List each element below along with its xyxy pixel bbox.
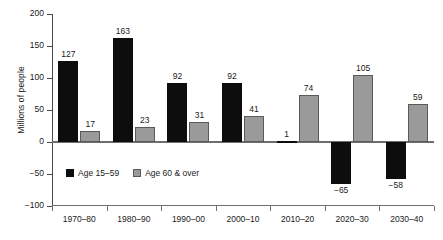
x-axis-tick-label: 1990–00 bbox=[161, 213, 216, 225]
y-axis-tick-label: −100 bbox=[25, 200, 44, 211]
x-axis-tick bbox=[107, 206, 108, 211]
y-axis-tick: 0 bbox=[47, 142, 52, 143]
y-axis-tick-label: 100 bbox=[30, 72, 44, 83]
y-axis-tick-label: 150 bbox=[30, 40, 44, 51]
bar[interactable] bbox=[386, 142, 406, 179]
y-axis-tick-label: −50 bbox=[30, 168, 44, 179]
y-axis-tick: 200 bbox=[47, 14, 52, 15]
legend-label: Age 15–59 bbox=[78, 168, 119, 178]
bar[interactable] bbox=[189, 122, 209, 142]
bar[interactable] bbox=[135, 127, 155, 142]
bar-value-label: 1 bbox=[272, 129, 302, 140]
legend-label: Age 60 & over bbox=[145, 168, 199, 178]
zero-baseline bbox=[52, 141, 434, 143]
y-axis-tick: 50 bbox=[47, 110, 52, 111]
y-axis-tick-label: 0 bbox=[39, 136, 44, 147]
legend-swatch-icon bbox=[133, 169, 141, 177]
bar[interactable] bbox=[408, 104, 428, 142]
bar-value-label: 92 bbox=[217, 71, 247, 82]
x-axis-tick-label: 2000–10 bbox=[216, 213, 271, 225]
x-axis-tick-label: 1970–80 bbox=[52, 213, 107, 225]
bar[interactable] bbox=[80, 131, 100, 142]
y-axis-tick: −50 bbox=[47, 174, 52, 175]
bar-value-label: −65 bbox=[326, 185, 356, 196]
bar-value-label: −58 bbox=[381, 180, 411, 191]
x-axis-tick bbox=[325, 206, 326, 211]
x-axis-tick-label: 1980–90 bbox=[107, 213, 162, 225]
bar-value-label: 31 bbox=[184, 110, 214, 121]
y-axis-tick-label: 200 bbox=[30, 8, 44, 19]
chart-legend: Age 15–59Age 60 & over bbox=[66, 168, 199, 178]
bar[interactable] bbox=[299, 95, 319, 142]
x-axis-spine bbox=[52, 205, 434, 206]
y-axis-tick: 100 bbox=[47, 78, 52, 79]
legend-swatch-icon bbox=[66, 169, 74, 177]
bar-value-label: 163 bbox=[108, 26, 138, 37]
x-axis-tick-label: 2030–40 bbox=[379, 213, 434, 225]
x-axis-tick bbox=[161, 206, 162, 211]
x-axis-tick-label: 2010–20 bbox=[270, 213, 325, 225]
bar-chart-figure: Millions of people 200150100500−50−100 1… bbox=[0, 0, 443, 240]
legend-entry[interactable]: Age 60 & over bbox=[133, 168, 199, 178]
legend-entry[interactable]: Age 15–59 bbox=[66, 168, 119, 178]
bar-value-label: 41 bbox=[239, 104, 269, 115]
x-axis-tick bbox=[216, 206, 217, 211]
x-axis-tick bbox=[52, 206, 53, 211]
y-axis-title: Millions of people bbox=[14, 10, 28, 190]
x-axis-tick bbox=[270, 206, 271, 211]
x-axis-tick bbox=[379, 206, 380, 211]
bar[interactable] bbox=[277, 141, 297, 143]
bar[interactable] bbox=[244, 116, 264, 142]
x-axis-tick-label: 2020–30 bbox=[325, 213, 380, 225]
bar-value-label: 92 bbox=[162, 71, 192, 82]
x-axis-tick bbox=[434, 206, 435, 211]
bar-value-label: 105 bbox=[348, 63, 378, 74]
y-axis-spine bbox=[52, 14, 53, 206]
bar[interactable] bbox=[113, 38, 133, 142]
bar-value-label: 17 bbox=[75, 119, 105, 130]
bar-value-label: 74 bbox=[294, 83, 324, 94]
bar-value-label: 23 bbox=[130, 115, 160, 126]
bar-value-label: 59 bbox=[403, 92, 433, 103]
y-axis-tick-label: 50 bbox=[35, 104, 44, 115]
bar[interactable] bbox=[353, 75, 373, 142]
bar[interactable] bbox=[331, 142, 351, 184]
bar-value-label: 127 bbox=[53, 49, 83, 60]
y-axis-tick: 150 bbox=[47, 46, 52, 47]
